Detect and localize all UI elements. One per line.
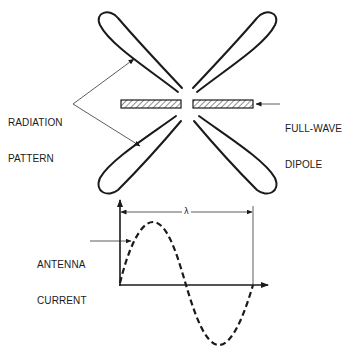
antenna-current-label-line2: CURRENT xyxy=(37,295,87,307)
lobe-upper-right xyxy=(193,12,276,92)
dipole-label: FULL-WAVE DIPOLE xyxy=(285,99,342,183)
radiation-leader-lower xyxy=(73,104,140,146)
dipole-label-line1: FULL-WAVE xyxy=(285,123,342,135)
antenna-current-label-line1: ANTENNA xyxy=(37,259,87,271)
radiation-pattern-label: RADIATION PATTERN xyxy=(8,93,63,177)
radiation-pattern-label-line2: PATTERN xyxy=(8,153,63,165)
antenna-current-waveform xyxy=(120,222,253,345)
dipole-label-line2: DIPOLE xyxy=(285,159,342,171)
antenna-current-label: ANTENNA CURRENT xyxy=(37,235,87,319)
lobe-upper-left xyxy=(99,12,182,92)
dipole-right-segment xyxy=(193,100,253,108)
radiation-pattern-label-line1: RADIATION xyxy=(8,117,63,129)
dipole-left-segment xyxy=(121,100,181,108)
full-wave-dipole xyxy=(121,100,253,108)
wavelength-dimension xyxy=(121,206,253,285)
lobe-lower-right xyxy=(194,116,276,194)
wavelength-label: λ xyxy=(182,207,191,216)
leader-lines xyxy=(73,59,280,241)
radiation-leader-upper xyxy=(73,59,134,104)
current-axes xyxy=(119,200,268,286)
